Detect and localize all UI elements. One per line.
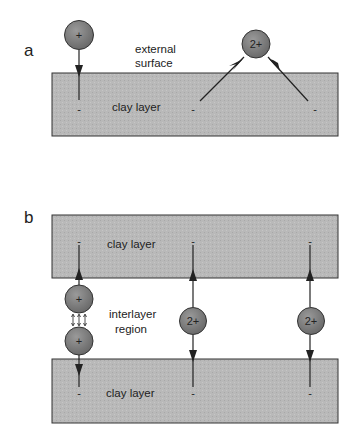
panel-b: b clay layer - - - clay layer - - - inte… [24, 208, 338, 423]
panel-b-label: b [24, 208, 33, 227]
negative-charge: - [191, 103, 195, 115]
cation-charge-label: + [76, 29, 82, 41]
interlayer-label-line2: region [115, 323, 147, 335]
negative-charge: - [313, 103, 317, 115]
clay-layer-bottom-label: clay layer [106, 387, 155, 399]
negative-charge: - [308, 387, 312, 399]
cation-charge-label: 2+ [250, 38, 263, 50]
cation-charge-label: 2+ [305, 315, 318, 327]
clay-layer-label: clay layer [112, 101, 161, 113]
clay-layer-top [52, 215, 338, 278]
cation-charge-label: + [76, 293, 82, 305]
clay-layer [52, 73, 338, 136]
surface-label-line1: external [135, 43, 176, 55]
negative-charge: - [77, 387, 81, 399]
cation-charge-label: + [76, 335, 82, 347]
clay-layer-top-label: clay layer [107, 238, 156, 250]
clay-layer-bottom [52, 359, 338, 423]
panel-a-label: a [24, 41, 34, 60]
cation-charge-label: 2+ [187, 315, 200, 327]
panel-a: a external surface clay layer + - 2+ - - [24, 21, 338, 137]
repulsion-arrows [72, 314, 87, 326]
negative-charge: - [77, 103, 81, 115]
negative-charge: - [191, 387, 195, 399]
surface-label-line2: surface [135, 57, 173, 69]
interlayer-label-line1: interlayer [109, 308, 156, 320]
clay-cation-diagram: a external surface clay layer + - 2+ - -… [0, 0, 358, 438]
